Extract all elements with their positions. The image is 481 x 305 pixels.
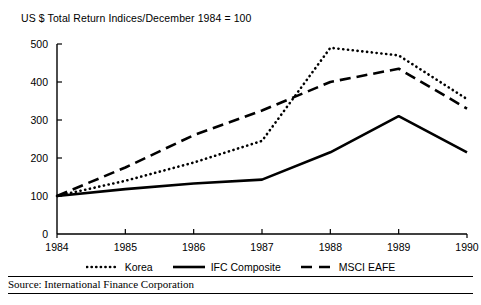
x-axis: 1984198519861987198819891990 <box>45 229 479 253</box>
y-tick-label: 400 <box>30 76 48 88</box>
x-tick-label: 1988 <box>319 241 343 253</box>
source-text: Source: International Finance Corporatio… <box>0 277 481 293</box>
y-tick-label: 0 <box>42 228 48 240</box>
legend-label-ifc-composite: IFC Composite <box>211 262 281 273</box>
y-tick-label: 100 <box>30 190 48 202</box>
legend-swatch-dashed-icon <box>300 262 334 272</box>
chart-figure: US $ Total Return Indices/December 1984 … <box>0 0 481 305</box>
source-block: Source: International Finance Corporatio… <box>0 276 481 294</box>
x-tick-label: 1987 <box>250 241 274 253</box>
x-tick-label: 1989 <box>387 241 411 253</box>
y-tick-label: 500 <box>30 38 48 50</box>
series-line-ifc-composite <box>57 116 467 196</box>
legend-swatch-solid-icon <box>172 262 206 272</box>
x-tick-label: 1985 <box>114 241 138 253</box>
legend-item-ifc-composite: IFC Composite <box>172 262 281 273</box>
source-rule-bottom <box>8 293 473 294</box>
legend-label-korea: Korea <box>125 262 153 273</box>
y-tick-label: 200 <box>30 152 48 164</box>
legend-label-msci-eafe: MSCI EAFE <box>339 262 396 273</box>
x-tick-label: 1986 <box>182 241 206 253</box>
y-axis: 0100200300400500 <box>30 38 62 240</box>
chart-legend: Korea IFC Composite MSCI EAFE <box>0 258 481 276</box>
series-line-msci-eafe <box>57 69 467 196</box>
legend-item-korea: Korea <box>86 262 153 273</box>
y-tick-label: 300 <box>30 114 48 126</box>
x-tick-label: 1984 <box>45 241 69 253</box>
data-series-group <box>57 48 467 196</box>
x-tick-label: 1990 <box>455 241 479 253</box>
legend-item-msci-eafe: MSCI EAFE <box>300 262 396 273</box>
chart-plot-area: 0100200300400500 19841985198619871988198… <box>0 0 481 258</box>
legend-swatch-dotted-icon <box>86 262 120 272</box>
series-line-korea <box>57 48 467 196</box>
